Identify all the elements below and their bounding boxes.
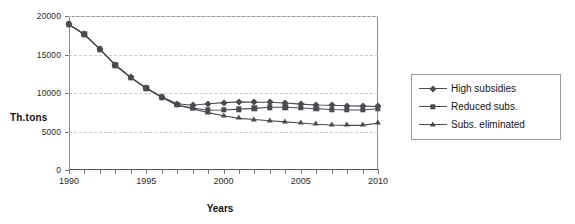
- data-point-triangle: [220, 112, 226, 117]
- data-point-square: [360, 107, 365, 112]
- y-tick-label: 10000: [15, 88, 61, 98]
- legend-square-icon: [418, 100, 448, 114]
- legend-item: Reduced subs.: [418, 98, 518, 115]
- data-point-triangle: [66, 21, 72, 26]
- x-tick-label: 2005: [281, 176, 321, 186]
- legend-diamond-icon: [418, 82, 448, 96]
- data-point-triangle: [251, 116, 257, 121]
- x-tick-label: 2010: [358, 176, 398, 186]
- y-tick-label: 5000: [15, 127, 61, 137]
- data-point-triangle: [328, 122, 334, 127]
- x-tick-label: 1995: [126, 176, 166, 186]
- data-point-triangle: [359, 122, 365, 127]
- data-point-triangle: [267, 117, 273, 122]
- data-point-triangle: [189, 105, 195, 110]
- x-tick-label: 1990: [49, 176, 89, 186]
- legend-item: Subs. eliminated: [418, 116, 525, 133]
- legend-label: Subs. eliminated: [448, 119, 525, 130]
- data-point-triangle: [158, 94, 164, 99]
- y-tick-label: 15000: [15, 50, 61, 60]
- data-point-triangle: [282, 118, 288, 123]
- data-point-triangle: [313, 121, 319, 126]
- legend-label: High subsidies: [448, 83, 516, 94]
- data-point-triangle: [143, 85, 149, 90]
- y-axis-title: Th.tons: [10, 112, 48, 123]
- data-point-triangle: [375, 120, 381, 125]
- data-point-square: [298, 105, 303, 110]
- data-point-triangle: [344, 122, 350, 127]
- x-tick-label: 2000: [204, 176, 244, 186]
- data-point-triangle: [298, 120, 304, 125]
- legend: High subsidiesReduced subs.Subs. elimina…: [411, 74, 561, 140]
- data-point-square: [375, 106, 380, 111]
- legend-item: High subsidies: [418, 80, 516, 97]
- x-tick: [378, 169, 379, 174]
- chart-screenshot: Th.tons Years 05000100001500020000 19901…: [0, 0, 575, 224]
- y-tick-label: 0: [15, 165, 61, 175]
- data-point-square: [313, 106, 318, 111]
- data-point-triangle: [205, 109, 211, 114]
- y-tick-label: 20000: [15, 11, 61, 21]
- data-point-triangle: [236, 115, 242, 120]
- legend-label: Reduced subs.: [448, 101, 518, 112]
- legend-triangle-icon: [418, 118, 448, 132]
- data-point-square: [236, 106, 241, 111]
- data-point-triangle: [97, 46, 103, 51]
- data-point-triangle: [174, 102, 180, 107]
- x-axis-title: Years: [160, 203, 280, 214]
- data-point-triangle: [128, 74, 134, 79]
- plot-area: [69, 16, 378, 170]
- data-point-square: [329, 107, 334, 112]
- data-point-square: [252, 106, 257, 111]
- data-point-triangle: [112, 62, 118, 67]
- data-point-square: [344, 107, 349, 112]
- data-point-square: [267, 105, 272, 110]
- data-point-square: [283, 105, 288, 110]
- series-lines: [69, 16, 378, 170]
- data-point-triangle: [81, 31, 87, 36]
